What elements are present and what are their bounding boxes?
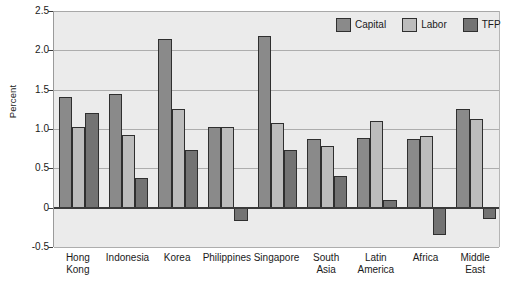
bar-group [352,11,402,247]
bar [307,139,320,207]
bar [158,39,171,208]
bar-group [402,11,452,247]
bar [234,208,247,221]
x-axis-label-line: Africa [401,252,451,264]
bar-group [104,11,154,247]
legend-swatch-icon [402,18,417,32]
legend-label: TFP [482,20,501,30]
plot-area [53,11,500,247]
zero-baseline [54,207,499,209]
bar [208,127,221,208]
y-axis-tick-label: -0.5 [15,242,49,252]
y-axis-tick-label: 1.5 [15,85,49,95]
x-axis-label-line: America [351,264,401,276]
bar [433,208,446,236]
bar [420,136,433,208]
bar [85,113,98,207]
y-axis-tick-mark [48,247,53,248]
bar-group [203,11,253,247]
legend-swatch-icon [463,18,478,32]
bar-group [451,11,501,247]
x-axis-label-line: East [450,264,500,276]
x-axis-label-line: Indonesia [103,252,153,264]
x-axis-label-line: South [301,252,351,264]
x-axis-category-label: Philippines [202,252,252,264]
legend-item[interactable]: Labor [402,18,447,32]
x-axis-labels: HongKongIndonesiaKoreaPhilippinesSingapo… [53,252,500,285]
bar [72,127,85,208]
x-axis-label-line: Asia [301,264,351,276]
bar-group [153,11,203,247]
bar [185,150,198,207]
x-axis-label-line: Kong [53,264,103,276]
x-axis-category-label: Korea [152,252,202,264]
x-axis-category-label: SouthAsia [301,252,351,276]
bar [321,146,334,207]
y-axis-tick-label: 1.0 [15,124,49,134]
legend: CapitalLaborTFP [336,15,501,34]
y-axis-tick-label: 0.5 [15,163,49,173]
bar [271,123,284,208]
x-axis-label-line: Korea [152,252,202,264]
bar [258,36,271,207]
x-axis-label-line: Hong [53,252,103,264]
bar [470,119,483,208]
bar [284,150,297,207]
y-axis-tick-label: 2.5 [15,6,49,16]
bar-group [302,11,352,247]
bar [135,178,148,208]
bar-group [253,11,303,247]
x-axis-label-line: Latin [351,252,401,264]
bar [407,139,420,207]
x-axis-category-label: MiddleEast [450,252,500,276]
x-axis-category-label: Indonesia [103,252,153,264]
x-axis-category-label: HongKong [53,252,103,276]
bar [59,97,72,208]
bar [456,109,469,208]
bar [221,127,234,208]
bar [483,208,496,219]
y-axis-tick-label: 0 [15,203,49,213]
bar [334,176,347,207]
bar [172,109,185,207]
gridline [54,247,499,248]
legend-label: Capital [355,20,386,30]
bar-group [54,11,104,247]
bar [109,94,122,208]
bar [370,121,383,208]
legend-item[interactable]: TFP [463,18,501,32]
y-axis-tick-label: 2.0 [15,45,49,55]
x-axis-category-label: LatinAmerica [351,252,401,276]
x-axis-label-line: Middle [450,252,500,264]
x-axis-category-label: Africa [401,252,451,264]
bars-layer [54,11,499,247]
legend-item[interactable]: Capital [336,18,386,32]
legend-swatch-icon [336,18,351,32]
grouped-bar-chart: Percent 2.52.01.51.00.50-0.5 CapitalLabo… [0,0,511,285]
legend-label: Labor [421,20,447,30]
x-axis-category-label: Singapore [252,252,302,264]
x-axis-label-line: Singapore [252,252,302,264]
bar [122,135,135,208]
bar [357,138,370,207]
x-axis-label-line: Philippines [202,252,252,264]
